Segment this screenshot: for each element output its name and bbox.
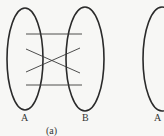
set-b-ellipse <box>66 7 104 111</box>
mapping-line-2 <box>26 49 80 73</box>
set-a-label: A <box>21 112 29 123</box>
figure-caption: (a) <box>46 125 57 136</box>
mapping-diagram: A B A (a) <box>0 0 164 136</box>
set-a2-ellipse <box>143 7 164 111</box>
set-a2-label: A <box>154 112 162 123</box>
set-b-label: B <box>82 112 89 123</box>
mapping-line-3 <box>26 48 80 72</box>
set-a-ellipse <box>7 8 43 110</box>
